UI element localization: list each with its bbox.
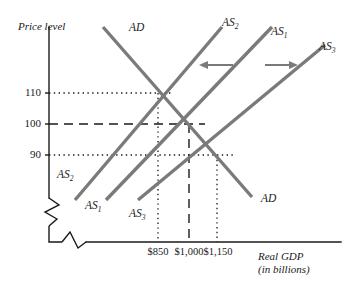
curve-label-as1-bottom: AS1 [85,199,102,215]
y-axis-corner [49,226,62,242]
curve-label-as2-top-text: AS [222,16,235,28]
y-axis-break-mark [45,198,59,226]
curve-label-as2-bottom-text: AS [57,168,70,180]
curve-label-ad-bottom-text: AD [261,192,276,204]
curve-label-as3-bottom: AS3 [129,207,146,223]
arrow-right-shift [265,61,298,69]
curve-label-as1-top-text: AS [271,25,284,37]
curve-label-as3-top-sub: 3 [332,46,336,55]
curve-label-as3-bottom-sub: 3 [142,213,146,222]
curve-label-as1-top-sub: 1 [284,31,288,40]
chart-canvas [0,0,351,284]
curve-label-as3-top: AS3 [319,40,336,56]
curve-as2 [75,27,222,200]
curve-label-as2-bottom-sub: 2 [70,174,74,183]
curve-label-as3-bottom-text: AS [129,207,142,219]
y-tick-label-90: 90 [8,148,41,160]
x-tick-label-1150: $1,150 [191,246,245,257]
y-tick-label-110: 110 [8,86,41,98]
curve-label-ad-top: AD [129,21,144,34]
y-axis-title: Price level [18,20,65,32]
y-tick-label-100: 100 [8,117,41,129]
curve-label-as1-bottom-sub: 1 [98,205,102,214]
aggregate-supply-demand-figure: Price level Real GDP (in billions) 110 1… [0,0,351,284]
curve-label-as1-bottom-text: AS [85,199,98,211]
curve-label-as3-top-text: AS [319,40,332,52]
curve-label-as2-top-sub: 2 [235,22,239,31]
curve-label-as2-bottom: AS2 [57,168,74,184]
curve-ad [103,27,252,197]
x-axis-title-line1: Real GDP [258,250,304,262]
arrow-left-shift [199,61,233,69]
curve-label-ad-top-text: AD [129,21,144,33]
x-axis-break-mark [62,232,86,248]
x-axis-title-line2: (in billions) [258,263,310,275]
curve-label-as2-top: AS2 [222,16,239,32]
curve-label-as1-top: AS1 [271,25,288,41]
curve-label-ad-bottom: AD [261,192,276,205]
